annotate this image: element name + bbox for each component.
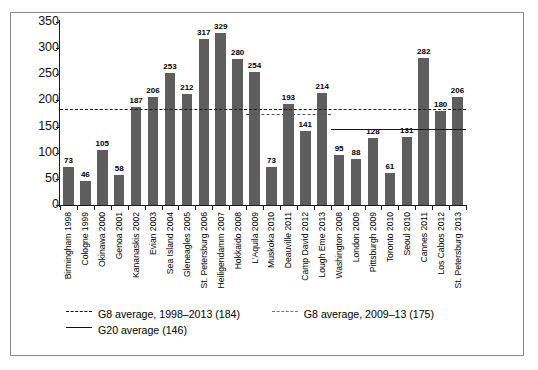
bar <box>249 72 259 205</box>
bar-value-label: 206 <box>146 87 159 95</box>
y-axis-tick-mark <box>56 153 60 154</box>
x-axis-tick-label: Seoul 2010 <box>402 212 411 256</box>
x-axis-tick-mark <box>60 206 61 210</box>
x-axis-tick-label: Birmingham 1998 <box>64 212 73 279</box>
bar-value-label: 180 <box>434 101 447 109</box>
bar <box>131 107 141 205</box>
bar-value-label: 73 <box>267 157 276 165</box>
y-axis-tick-mark <box>56 22 60 23</box>
x-axis-tick-mark <box>432 206 433 210</box>
y-axis-tick-label: 50 <box>19 172 59 185</box>
x-axis-tick-label: Genoa 2001 <box>115 212 124 259</box>
y-axis-tick-label: 300 <box>19 41 59 54</box>
bar <box>452 97 462 205</box>
x-axis-tick-label: Washington 2008 <box>335 212 344 279</box>
bar-value-label: 105 <box>96 140 109 148</box>
bar-value-label: 58 <box>115 165 124 173</box>
legend-row-2: G20 average (146) <box>66 322 506 338</box>
x-axis-tick-label: Okinawa 2000 <box>98 212 107 267</box>
bar-value-label: 187 <box>129 97 142 105</box>
y-axis-tick-label: 250 <box>19 67 59 80</box>
x-axis-tick-label: St. Petersburg 2006 <box>199 212 208 288</box>
bar-value-label: 253 <box>163 63 176 71</box>
reference-line-g20-average <box>331 129 466 130</box>
x-axis-tick-label: Heiligendamm 2007 <box>216 212 225 288</box>
x-axis-tick-label: Camp David 2012 <box>301 212 310 281</box>
bar-value-label: 214 <box>316 83 329 91</box>
legend-row-1: G8 average, 1998–2013 (184) G8 average, … <box>66 306 506 322</box>
bar <box>199 39 209 205</box>
bar <box>63 167 73 205</box>
x-axis-tick-label: Pittsburgh 2009 <box>369 212 378 272</box>
bar-value-label: 329 <box>214 23 227 31</box>
y-axis-tick-label: 150 <box>19 120 59 133</box>
bar-value-label: 141 <box>299 121 312 129</box>
legend-item-g8-2009-13: G8 average, 2009–13 (175) <box>272 307 434 320</box>
y-axis-tick-mark <box>56 74 60 75</box>
x-axis-tick-label: Toronto 2010 <box>386 212 395 262</box>
x-axis-tick-mark <box>314 206 315 210</box>
bar <box>368 138 378 205</box>
bar-value-label: 212 <box>180 84 193 92</box>
legend-swatch-dotted-icon <box>272 311 298 312</box>
y-axis-tick-mark <box>56 48 60 49</box>
y-axis: 050100150200250300350 <box>10 0 59 370</box>
bar-value-label: 193 <box>282 94 295 102</box>
x-axis-tick-mark <box>162 206 163 210</box>
x-axis-tick-mark <box>212 206 213 210</box>
plot-area: 7346105581872062532123173292802547319314… <box>60 22 466 205</box>
y-axis-tick-mark <box>56 179 60 180</box>
x-axis-tick-mark <box>263 206 264 210</box>
bar <box>402 137 412 205</box>
legend-item-g20: G20 average (146) <box>66 323 187 336</box>
bar <box>300 131 310 205</box>
bar <box>351 159 361 205</box>
x-axis-tick-mark <box>365 206 366 210</box>
bar-value-label: 88 <box>352 149 361 157</box>
x-axis-tick-mark <box>331 206 332 210</box>
x-axis-tick-mark <box>415 206 416 210</box>
bar <box>283 104 293 205</box>
bar <box>148 97 158 205</box>
reference-line-g8-average-2009-13 <box>246 114 331 115</box>
y-axis-tick-label: 0 <box>19 198 59 211</box>
bar <box>435 111 445 205</box>
bar-value-label: 95 <box>335 145 344 153</box>
x-axis-tick-mark <box>229 206 230 210</box>
x-axis-tick-mark <box>381 206 382 210</box>
bar <box>215 33 225 205</box>
x-axis-tick-mark <box>466 206 467 210</box>
legend-swatch-solid-icon <box>66 327 92 328</box>
x-axis-tick-label: Los Cabos 2012 <box>436 212 445 275</box>
bar <box>385 173 395 205</box>
bar-value-label: 73 <box>64 157 73 165</box>
bar-value-label: 282 <box>417 48 430 56</box>
x-axis-tick-label: London 2009 <box>352 212 361 262</box>
bar <box>80 181 90 205</box>
legend-label-g8-1998-2013: G8 average, 1998–2013 (184) <box>98 308 240 320</box>
x-axis-tick-label: Sea Island 2004 <box>166 212 175 274</box>
bar-value-label: 317 <box>197 29 210 37</box>
x-axis-tick-mark <box>128 206 129 210</box>
x-axis-tick-label: St. Petersburg 2013 <box>453 212 462 288</box>
x-axis-tick-label: Cologne 1999 <box>81 212 90 266</box>
bar <box>334 155 344 205</box>
x-axis-tick-mark <box>246 206 247 210</box>
y-axis-tick-label: 350 <box>19 15 59 28</box>
x-axis-tick-label: Kananaskis 2002 <box>132 212 141 278</box>
x-axis-tick-label: Lough Eme 2013 <box>318 212 327 277</box>
y-axis-tick-label: 100 <box>19 146 59 159</box>
x-axis-tick-mark <box>111 206 112 210</box>
bar <box>165 73 175 205</box>
bar <box>317 93 327 205</box>
bar <box>266 167 276 205</box>
legend-label-g8-2009-13: G8 average, 2009–13 (175) <box>304 308 434 320</box>
x-axis-tick-mark <box>449 206 450 210</box>
bar <box>182 94 192 205</box>
x-axis-tick-mark <box>178 206 179 210</box>
x-axis-tick-label: Cannes 2011 <box>419 212 428 263</box>
x-axis-tick-mark <box>297 206 298 210</box>
bar <box>114 175 124 205</box>
legend-item-g8-1998-2013: G8 average, 1998–2013 (184) <box>66 307 240 320</box>
x-axis-tick-label: Muskoka 2010 <box>267 212 276 268</box>
